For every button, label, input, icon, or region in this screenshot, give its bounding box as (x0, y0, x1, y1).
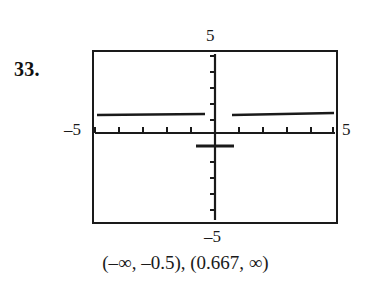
axis-label-y-min: –5 (204, 228, 221, 245)
curve-right-branch (232, 113, 334, 115)
graphing-calculator-plot (92, 50, 338, 224)
figure-root: 33. (0, 0, 371, 287)
axis-label-y-max: 5 (206, 27, 215, 44)
axis-label-x-min: –5 (64, 121, 81, 138)
curve-left-branch (97, 114, 205, 115)
plot-canvas (92, 50, 338, 224)
problem-number-label: 33. (14, 58, 40, 81)
answer-interval-notation: (–∞, –0.5), (0.667, ∞) (0, 252, 371, 274)
axis-label-x-max: 5 (342, 121, 351, 138)
